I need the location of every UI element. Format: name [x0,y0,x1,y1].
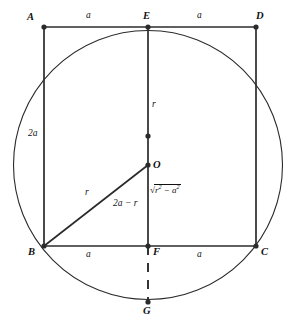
geometry-canvas [0,0,291,330]
measure-label-bottom-left-a: a [86,250,91,260]
radicand: r2 − a2 [154,184,181,195]
point-label-d: D [256,11,264,22]
vertex-dot-a [41,24,46,29]
measure-label-lower-segment-2a-minus-r: 2a − r [113,199,137,209]
measure-label-top-left-a: a [86,11,91,21]
vertex-dot-b [41,243,46,248]
measure-label-top-right-a: a [197,11,202,21]
radicand-exponent: 2 [177,184,180,190]
radicand-term: r2 [155,185,162,195]
point-label-b: B [28,247,35,258]
measure-label-left-side-2a: 2a [28,129,38,139]
vertex-dot-g [145,299,150,304]
radicand-term: a2 [172,185,180,195]
vertex-dot-o [145,162,150,167]
point-label-o: O [153,160,161,171]
measure-label-bottom-right-a: a [197,250,202,260]
sqrt-expression-label: √r2 − a2 [150,186,181,195]
vertex-dot-c [253,243,258,248]
radicand-operator: − [162,185,173,195]
point-label-f: F [153,247,160,258]
point-label-g: G [143,306,151,317]
vertex-dot-d [253,24,258,29]
vertex-dot-f [145,243,150,248]
point-label-a: A [27,12,34,23]
point-label-e: E [143,11,150,22]
vertex-dots-group [41,24,258,304]
measure-label-upper-radius-r: r [152,100,156,110]
geometry-figure: AEDBFCOG aaaa2arr2a − r √r2 − a2 [0,0,291,330]
vertex-dot-e [145,24,150,29]
measure-label-diagonal-radius-r: r [85,188,89,198]
vertex-dot-m [145,133,150,138]
point-label-c: C [261,247,268,258]
